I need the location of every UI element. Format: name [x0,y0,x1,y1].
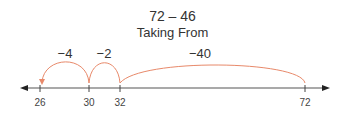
left-arrow-icon [20,85,28,91]
jump-arc-minus-2 [89,63,120,83]
tick-label-26: 26 [34,97,45,108]
number-line-diagram [0,0,345,114]
jump-arc-minus-40 [120,65,305,83]
right-arrow-icon [322,85,330,91]
jump-arc-minus-4 [42,62,89,83]
arc-arrowhead-icon [39,79,45,85]
tick-label-32: 32 [114,97,125,108]
tick-label-72: 72 [299,97,310,108]
tick-label-30: 30 [83,97,94,108]
